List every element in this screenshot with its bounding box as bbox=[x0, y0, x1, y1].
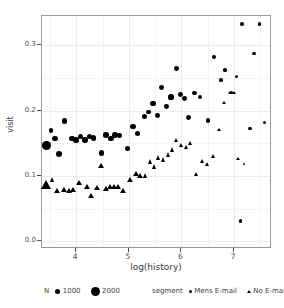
data-point-triangle bbox=[161, 157, 165, 162]
data-point-circle bbox=[56, 151, 62, 157]
data-point-triangle bbox=[194, 172, 198, 176]
data-point-circle bbox=[198, 95, 203, 100]
data-point-triangle bbox=[222, 101, 226, 104]
grid-line-vertical bbox=[181, 16, 182, 247]
data-point-triangle bbox=[166, 152, 170, 157]
data-point-triangle bbox=[94, 185, 100, 190]
legend-segment-label-no-email: No E-mail bbox=[253, 287, 284, 295]
data-point-circle bbox=[192, 91, 197, 96]
data-point-triangle bbox=[152, 164, 156, 169]
legend-size-label-2000: 2000 bbox=[102, 287, 120, 295]
x-axis-tick-label: 7 bbox=[223, 252, 243, 261]
data-point-triangle bbox=[120, 188, 126, 193]
data-point-circle bbox=[142, 114, 147, 119]
data-point-circle bbox=[252, 52, 255, 55]
legend-segment-group: segment Mens E-mail No E-mail bbox=[152, 284, 284, 298]
data-point-circle bbox=[240, 22, 243, 25]
data-point-circle bbox=[155, 113, 160, 118]
circle-small-icon bbox=[55, 289, 60, 294]
data-point-circle bbox=[258, 22, 261, 25]
data-point-circle bbox=[206, 118, 210, 122]
data-point-circle bbox=[91, 135, 96, 140]
x-axis-tick-label: 4 bbox=[65, 252, 85, 261]
x-axis-tick-label: 5 bbox=[118, 252, 138, 261]
data-point-triangle bbox=[170, 147, 174, 152]
data-point-triangle bbox=[88, 193, 94, 198]
legend-size-group: N 1000 2000 bbox=[44, 284, 127, 298]
data-point-triangle bbox=[143, 173, 147, 178]
data-point-circle bbox=[130, 124, 135, 129]
data-point-circle bbox=[212, 55, 216, 59]
grid-line-vertical-minor bbox=[208, 16, 209, 247]
data-point-circle bbox=[182, 96, 187, 101]
data-point-triangle bbox=[179, 143, 183, 147]
x-axis-tick-mark bbox=[75, 248, 76, 252]
legend-size-title: N bbox=[44, 287, 49, 295]
data-point-circle bbox=[99, 150, 104, 155]
data-point-triangle bbox=[232, 91, 236, 94]
chart-legend: N 1000 2000 segment Mens E-mail No E-mai… bbox=[0, 284, 284, 300]
y-axis-title: visit bbox=[6, 95, 15, 155]
grid-line-vertical bbox=[234, 16, 235, 247]
data-point-triangle bbox=[243, 162, 245, 165]
data-point-triangle bbox=[76, 180, 82, 185]
y-axis-tick-mark bbox=[37, 175, 41, 176]
legend-segment-item-mens-email[interactable]: Mens E-mail bbox=[189, 287, 237, 295]
data-point-triangle bbox=[127, 177, 133, 182]
grid-line-vertical-minor bbox=[260, 16, 261, 247]
y-axis-tick-mark bbox=[37, 240, 41, 241]
y-axis-tick-mark bbox=[37, 44, 41, 45]
data-point-circle bbox=[174, 66, 179, 71]
data-point-circle bbox=[219, 78, 223, 82]
data-point-triangle bbox=[84, 184, 90, 189]
data-point-triangle bbox=[205, 162, 209, 166]
data-point-triangle bbox=[236, 157, 240, 160]
x-axis-tick-mark bbox=[128, 248, 129, 252]
data-point-triangle bbox=[200, 159, 204, 163]
y-axis-tick-label: 0.0 bbox=[0, 236, 36, 244]
data-point-circle bbox=[223, 68, 227, 72]
data-point-circle bbox=[248, 127, 251, 130]
data-point-triangle bbox=[188, 141, 192, 145]
data-point-circle bbox=[168, 94, 173, 99]
grid-line-vertical-minor bbox=[155, 16, 156, 247]
data-point-triangle bbox=[70, 187, 76, 192]
x-axis-tick-mark bbox=[233, 248, 234, 252]
data-point-circle bbox=[186, 115, 191, 120]
data-point-triangle bbox=[50, 177, 54, 182]
data-point-circle bbox=[159, 85, 164, 90]
data-point-circle bbox=[146, 110, 151, 115]
data-point-circle bbox=[150, 101, 155, 106]
circle-icon bbox=[189, 290, 192, 293]
scatter-chart: 0.00.10.20.3 4567 visit log(history) N 1… bbox=[0, 0, 284, 308]
legend-segment-title: segment bbox=[152, 287, 183, 295]
data-point-circle bbox=[263, 121, 266, 124]
y-axis-tick-label: 0.3 bbox=[0, 40, 36, 48]
triangle-icon bbox=[247, 290, 251, 293]
plot-panel bbox=[41, 15, 271, 248]
data-point-triangle bbox=[184, 145, 188, 149]
data-point-circle bbox=[164, 104, 169, 109]
legend-size-item-1000[interactable]: 1000 bbox=[55, 287, 80, 295]
data-point-circle bbox=[52, 136, 57, 141]
y-axis-tick-label: 0.1 bbox=[0, 171, 36, 179]
grid-line-vertical bbox=[129, 16, 130, 247]
data-point-circle bbox=[135, 131, 140, 136]
data-point-circle bbox=[117, 133, 122, 138]
x-axis-tick-mark bbox=[180, 248, 181, 252]
x-axis-title: log(history) bbox=[41, 262, 271, 272]
data-point-circle bbox=[42, 141, 51, 150]
y-axis-tick-mark bbox=[37, 110, 41, 111]
grid-line-vertical bbox=[76, 16, 77, 247]
data-point-triangle bbox=[54, 188, 60, 193]
x-axis-tick-label: 6 bbox=[170, 252, 190, 261]
circle-large-icon bbox=[91, 287, 100, 296]
data-point-triangle bbox=[211, 154, 215, 158]
legend-size-item-2000[interactable]: 2000 bbox=[91, 287, 120, 296]
data-point-circle bbox=[62, 118, 67, 123]
legend-size-label-1000: 1000 bbox=[63, 287, 81, 295]
data-point-triangle bbox=[174, 138, 178, 142]
data-point-triangle bbox=[217, 128, 221, 131]
legend-segment-item-no-email[interactable]: No E-mail bbox=[247, 287, 284, 295]
data-point-circle bbox=[239, 219, 242, 222]
